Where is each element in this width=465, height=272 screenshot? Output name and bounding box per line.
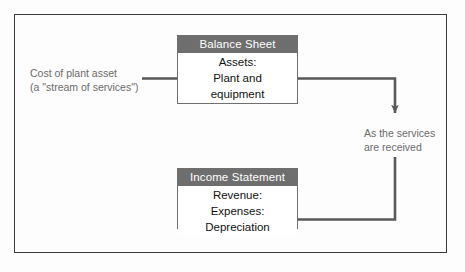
as-the-services-received-label: As the services are received <box>364 126 435 154</box>
diagram-canvas: Balance Sheet Assets: Plant and equipmen… <box>0 0 465 272</box>
balance-sheet-box: Balance Sheet Assets: Plant and equipmen… <box>177 35 298 104</box>
services-label-line-1: As the services <box>364 126 435 140</box>
balance-sheet-row-equipment: equipment <box>178 86 297 102</box>
income-statement-body: Revenue: Expenses: Depreciation <box>178 186 297 235</box>
cost-label-line-2: (a "stream of services") <box>30 80 138 94</box>
income-statement-row-revenue: Revenue: <box>178 187 297 203</box>
balance-sheet-body: Assets: Plant and equipment <box>178 53 297 102</box>
balance-sheet-header: Balance Sheet <box>178 36 297 53</box>
income-statement-row-depreciation: Depreciation <box>178 219 297 235</box>
balance-sheet-row-assets: Assets: <box>178 54 297 70</box>
income-statement-box: Income Statement Revenue: Expenses: Depr… <box>177 168 298 229</box>
balance-sheet-row-plant: Plant and <box>178 70 297 86</box>
income-statement-header: Income Statement <box>178 169 297 186</box>
cost-of-plant-asset-label: Cost of plant asset (a "stream of servic… <box>30 66 138 94</box>
income-statement-row-expenses: Expenses: <box>178 203 297 219</box>
cost-label-line-1: Cost of plant asset <box>30 66 138 80</box>
services-label-line-2: are received <box>364 140 435 154</box>
